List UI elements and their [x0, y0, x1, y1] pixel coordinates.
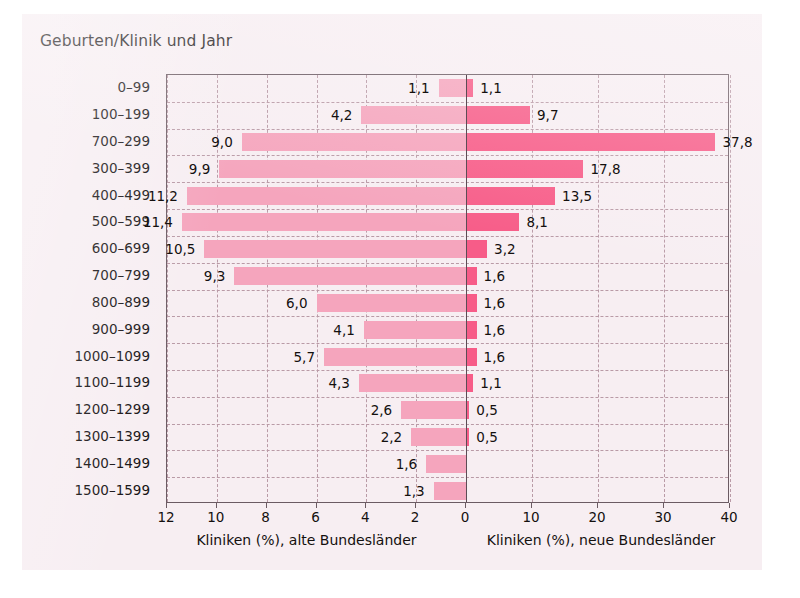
axis-caption-right: Kliniken (%), neue Bundesländer — [487, 532, 716, 548]
axis-tick-mark — [166, 503, 167, 508]
bar-row: 4,11,6 — [167, 316, 728, 343]
bar-row: 11,213,5 — [167, 182, 728, 209]
category-label: 0–99 — [117, 79, 150, 95]
bar-left — [434, 482, 466, 500]
bar-right — [466, 106, 530, 124]
bar-right — [466, 79, 473, 97]
bar-row: 4,31,1 — [167, 370, 728, 397]
bar-value-left: 6,0 — [286, 295, 307, 311]
bar-value-right: 1,1 — [480, 80, 501, 96]
bar-value-right: 1,6 — [484, 295, 505, 311]
bar-value-left: 2,6 — [371, 402, 392, 418]
bar-right — [466, 213, 519, 231]
bar-value-left: 9,0 — [211, 134, 232, 150]
bar-row: 2,20,5 — [167, 424, 728, 451]
bar-value-left: 11,4 — [143, 214, 173, 230]
bar-left — [361, 106, 466, 124]
axis-tick-mark — [216, 503, 217, 508]
axis-tick-mark — [663, 503, 664, 508]
bar-left — [242, 133, 466, 151]
bar-left — [182, 213, 466, 231]
bar-value-left: 1,6 — [396, 456, 417, 472]
plot-area: 1,11,14,29,79,037,89,917,811,213,511,48,… — [166, 74, 729, 503]
bar-value-left: 4,2 — [331, 107, 352, 123]
bar-row: 6,01,6 — [167, 290, 728, 317]
bar-value-right: 13,5 — [562, 188, 592, 204]
bar-value-right: 1,1 — [480, 375, 501, 391]
bar-value-right: 0,5 — [476, 429, 497, 445]
bar-left — [426, 455, 466, 473]
bar-row: 9,037,8 — [167, 129, 728, 156]
bar-left — [401, 401, 466, 419]
bar-left — [324, 348, 466, 366]
value-axis-ticks: 12108642010203040 — [166, 503, 729, 527]
bar-value-left: 10,5 — [165, 241, 195, 257]
bar-row: 2,60,5 — [167, 397, 728, 424]
bar-right — [466, 374, 473, 392]
bar-row: 11,48,1 — [167, 209, 728, 236]
axis-tick-label-right: 20 — [588, 509, 605, 525]
axis-tick-mark — [729, 503, 730, 508]
figure-panel: Geburten/Klinik und Jahr 0–99100–199700–… — [22, 14, 762, 570]
bar-left — [317, 294, 467, 312]
axis-tick-mark — [531, 503, 532, 508]
category-label: 300–399 — [92, 160, 150, 176]
axis-tick-label-left: 12 — [157, 509, 174, 525]
bar-right — [466, 267, 477, 285]
category-label: 1300–1399 — [75, 428, 150, 444]
axis-tick-mark — [415, 503, 416, 508]
bar-row: 1,11,1 — [167, 75, 728, 102]
category-label: 400–499 — [92, 187, 150, 203]
bar-value-right: 1,6 — [484, 349, 505, 365]
bar-value-left: 1,1 — [408, 80, 429, 96]
axis-tick-mark — [266, 503, 267, 508]
category-label: 1200–1299 — [75, 401, 150, 417]
bar-right — [466, 160, 583, 178]
bar-value-right: 37,8 — [722, 134, 752, 150]
bar-left — [187, 187, 466, 205]
category-label: 1000–1099 — [75, 348, 150, 364]
bar-value-left: 1,3 — [403, 483, 424, 499]
bar-left — [359, 374, 466, 392]
category-label: 500–599 — [92, 213, 150, 229]
bar-right — [466, 348, 477, 366]
category-label: 700–799 — [92, 267, 150, 283]
bar-value-left: 5,7 — [294, 349, 315, 365]
bar-value-left: 9,3 — [204, 268, 225, 284]
bar-value-right: 0,5 — [476, 402, 497, 418]
bar-value-right: 9,7 — [537, 107, 558, 123]
bar-value-left: 4,3 — [328, 375, 349, 391]
bar-row: 1,6 — [167, 450, 728, 477]
bar-row: 4,29,7 — [167, 102, 728, 129]
bar-right — [466, 321, 477, 339]
category-label: 700–299 — [92, 133, 150, 149]
bar-row: 1,3 — [167, 477, 728, 504]
category-label: 800–899 — [92, 294, 150, 310]
bar-left — [219, 160, 466, 178]
bar-right — [466, 133, 715, 151]
zero-axis-line — [466, 75, 467, 502]
bar-right — [466, 294, 477, 312]
axis-tick-label-right: 40 — [720, 509, 737, 525]
bar-value-right: 3,2 — [494, 241, 515, 257]
category-label: 1400–1499 — [75, 455, 150, 471]
bar-row: 9,31,6 — [167, 263, 728, 290]
category-label: 600–699 — [92, 240, 150, 256]
axis-tick-mark — [465, 503, 466, 508]
bar-right — [466, 187, 555, 205]
bar-value-right: 8,1 — [526, 214, 547, 230]
category-label: 1500–1599 — [75, 482, 150, 498]
axis-tick-mark — [365, 503, 366, 508]
bar-value-left: 4,1 — [333, 322, 354, 338]
axis-tick-mark — [316, 503, 317, 508]
category-label: 100–199 — [92, 106, 150, 122]
bar-value-right: 1,6 — [484, 322, 505, 338]
axis-tick-label-left: 0 — [461, 509, 470, 525]
bar-row: 9,917,8 — [167, 155, 728, 182]
bar-value-right: 1,6 — [484, 268, 505, 284]
axis-tick-label-left: 4 — [361, 509, 370, 525]
bar-left — [234, 267, 466, 285]
category-label: 900–999 — [92, 321, 150, 337]
axis-captions: Kliniken (%), alte BundesländerKliniken … — [22, 532, 762, 556]
category-axis-labels: 0–99100–199700–299300–399400–499500–5996… — [22, 74, 158, 503]
